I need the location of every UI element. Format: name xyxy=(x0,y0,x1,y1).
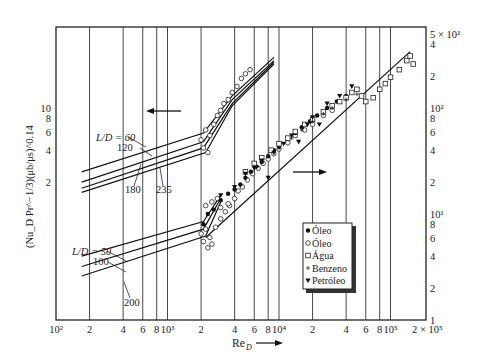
left-tick-label: 2 xyxy=(46,177,51,188)
right-tick-label: 1 xyxy=(430,315,435,326)
svg-text:180: 180 xyxy=(125,184,141,195)
x-tick-label: 8 xyxy=(266,324,271,335)
x-tick-label: 2 xyxy=(87,324,92,335)
right-tick-label: 10¹ xyxy=(430,209,444,220)
svg-text:235: 235 xyxy=(156,184,172,195)
chart: 10²246810³246810⁴246810⁵2 × 10⁵ 1246810¹… xyxy=(0,0,481,363)
right-tick-label: 5 × 10² xyxy=(430,29,460,40)
x-tick-label: 8 xyxy=(154,324,159,335)
left-tick-label: 6 xyxy=(46,127,51,138)
x-tick-label: 6 xyxy=(140,324,145,335)
x-tick-label: 4 xyxy=(121,324,127,335)
svg-text:(Nu_D Pr^−1/3)(μb/μs)^0.14: (Nu_D Pr^−1/3)(μb/μs)^0.14 xyxy=(24,125,36,248)
right-tick-label: 4 xyxy=(430,251,436,262)
svg-text:120: 120 xyxy=(117,142,133,153)
y-axis-label: (Nu_D Pr^−1/3)(μb/μs)^0.14 xyxy=(24,125,36,248)
x-tick-label: 10⁴ xyxy=(272,324,287,335)
x-tick-label: 10⁵ xyxy=(383,324,398,335)
legend: ÓleoÓleoÁguaBenzenoPetróleo xyxy=(303,223,356,293)
left-tick-label: 8 xyxy=(46,113,51,124)
svg-text:Re: Re xyxy=(232,337,245,349)
x-tick-label: 4 xyxy=(232,324,238,335)
svg-text:Óleo: Óleo xyxy=(312,225,331,236)
x-tick-label: 2 xyxy=(310,324,315,335)
right-tick-label: 2 xyxy=(430,71,435,82)
x-tick-label: 10² xyxy=(49,324,63,335)
left-tick-label: 4 xyxy=(46,145,52,156)
right-tick-label: 2 xyxy=(430,177,435,188)
left-tick-label: 10 xyxy=(41,103,52,114)
right-tick-label: 6 xyxy=(430,127,435,138)
x-tick-label: 4 xyxy=(344,324,350,335)
legend-item: Benzeno xyxy=(306,263,347,274)
right-tick-label: 2 xyxy=(430,283,435,294)
correlation-curves xyxy=(82,52,410,276)
svg-text:Óleo: Óleo xyxy=(312,238,331,249)
right-tick-label: 6 xyxy=(430,233,435,244)
right-tick-label: 8 xyxy=(430,113,435,124)
legend-item: Petróleo xyxy=(305,275,345,286)
right-tick-label: 10² xyxy=(430,103,444,114)
right-arrow-icon xyxy=(293,169,327,175)
svg-text:Água: Água xyxy=(312,250,334,261)
svg-text:Benzeno: Benzeno xyxy=(312,263,347,274)
x-tick-label: 2 xyxy=(198,324,203,335)
right-tick-label: 4 xyxy=(430,145,436,156)
x-axis-label: Re D xyxy=(232,337,283,352)
left-arrow-icon xyxy=(146,108,181,114)
left-axis-ticks: 246810 xyxy=(41,103,52,188)
right-tick-label: 4 xyxy=(430,39,436,50)
x-tick-label: 6 xyxy=(363,324,368,335)
correlation-line xyxy=(82,61,274,182)
x-tick-label: 10³ xyxy=(161,324,175,335)
right-tick-label: 8 xyxy=(430,219,435,230)
right-axis-ticks: 1246810¹246810²245 × 10² xyxy=(430,29,460,326)
data-points xyxy=(199,54,416,250)
svg-text:200: 200 xyxy=(124,297,140,308)
x-tick-label: 2 × 10⁵ xyxy=(412,324,443,335)
plot-frame xyxy=(56,27,426,320)
svg-text:D: D xyxy=(245,343,252,352)
x-tick-label: 8 xyxy=(377,324,382,335)
x-axis-ticks: 10²246810³246810⁴246810⁵2 × 10⁵ xyxy=(49,324,443,335)
svg-text:100: 100 xyxy=(93,256,109,267)
svg-text:Petróleo: Petróleo xyxy=(312,275,345,286)
x-tick-label: 6 xyxy=(252,324,257,335)
